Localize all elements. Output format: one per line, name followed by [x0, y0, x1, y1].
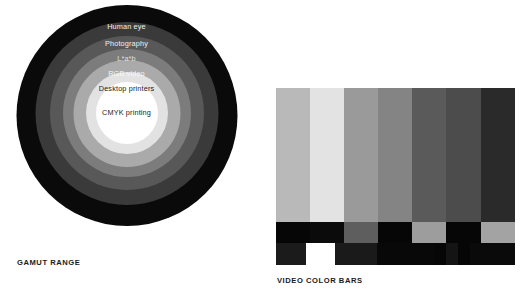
color-bar-main-blue-6 — [481, 88, 515, 222]
color-bar-bottom-dark-blue-0 — [276, 243, 306, 265]
color-bar-main-red-5 — [446, 88, 481, 222]
color-bar-main-yellow-1 — [310, 88, 344, 222]
color-bar-main-gray-0 — [276, 88, 310, 222]
color-bars-main-row — [276, 88, 515, 222]
color-bar-bottom-white-1 — [306, 243, 335, 265]
color-bar-middle-cyan-4 — [412, 222, 446, 243]
color-bar-middle-black-5 — [446, 222, 481, 243]
color-bar-middle-black-3 — [378, 222, 412, 243]
video-color-bars-figure: VIDEO COLOR BARS — [0, 0, 530, 296]
color-bar-middle-blue-0 — [276, 222, 310, 243]
color-bars-bottom-row — [276, 243, 515, 265]
color-bar-middle-light-gray-6 — [481, 222, 515, 243]
color-bars-panel — [276, 88, 515, 265]
color-bar-main-green-3 — [378, 88, 412, 222]
color-bar-bottom-dark-purple-2 — [335, 243, 377, 265]
color-bar-main-magenta-4 — [412, 88, 446, 222]
color-bars-middle-row — [276, 222, 515, 243]
color-bar-middle-black-1 — [310, 222, 344, 243]
video-color-bars-caption: VIDEO COLOR BARS — [277, 276, 363, 285]
color-bar-bottom-pluge-minus-4 — [434, 243, 446, 265]
color-bar-bottom-pluge-plus-6 — [458, 243, 470, 265]
color-bar-bottom-pluge-mid-5 — [446, 243, 458, 265]
color-bar-bottom-black-3 — [377, 243, 434, 265]
color-bar-main-cyan-2 — [344, 88, 378, 222]
color-bar-middle-magenta-2 — [344, 222, 378, 243]
color-bar-bottom-black-end-7 — [470, 243, 515, 265]
